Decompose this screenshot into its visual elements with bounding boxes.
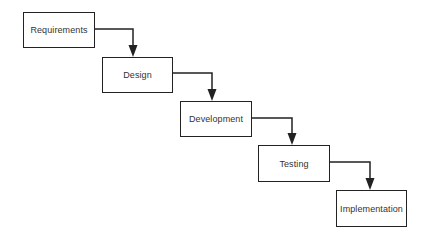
stage-label-development: Development xyxy=(189,114,243,124)
waterfall-diagram: Requirements Design Development Testing … xyxy=(0,0,425,237)
stage-testing: Testing xyxy=(258,145,330,182)
stage-label-implementation: Implementation xyxy=(340,204,403,214)
arrow-development-to-testing xyxy=(252,118,292,133)
arrow-testing-to-implementation xyxy=(330,162,370,178)
stage-implementation: Implementation xyxy=(336,190,407,227)
arrowhead-icon xyxy=(366,178,375,190)
arrowhead-icon xyxy=(288,133,297,145)
stage-label-requirements: Requirements xyxy=(30,25,87,35)
arrowhead-icon xyxy=(208,89,217,101)
stage-design: Design xyxy=(102,57,173,93)
stage-requirements: Requirements xyxy=(23,12,95,48)
arrowhead-icon xyxy=(129,45,138,57)
arrow-design-to-development xyxy=(173,73,212,89)
arrow-requirements-to-design xyxy=(95,29,133,45)
stage-label-design: Design xyxy=(123,70,152,80)
stage-label-testing: Testing xyxy=(279,159,308,169)
stage-development: Development xyxy=(180,101,252,137)
